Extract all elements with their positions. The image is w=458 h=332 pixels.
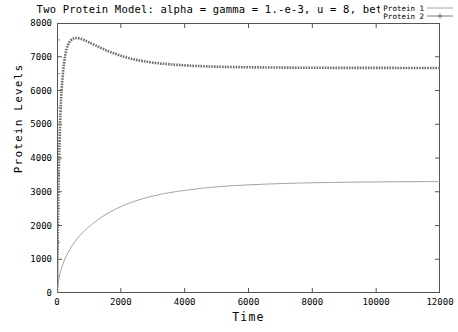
x-tick-label: 4000: [174, 297, 196, 307]
series-lines: [57, 23, 440, 293]
x-tick-label: 10000: [363, 297, 390, 307]
y-tick-label: 0: [4, 288, 52, 298]
legend-plus-marker: [437, 13, 443, 19]
x-tick-label: 2000: [110, 297, 132, 307]
legend-line-sample: [427, 4, 453, 12]
x-axis-tick-labels: 020004000600080001000012000: [57, 297, 440, 311]
y-axis-label: Protein Levels: [12, 49, 25, 189]
series-line: [57, 38, 440, 293]
x-axis-label: Time: [57, 310, 440, 324]
x-tick-label: 0: [54, 297, 59, 307]
y-tick-label: 2000: [4, 221, 52, 231]
y-tick-label: 1000: [4, 254, 52, 264]
x-tick-label: 12000: [426, 297, 453, 307]
legend-line-sample: [427, 12, 453, 20]
plot-area: [57, 23, 440, 293]
legend-item: Protein 2: [383, 12, 453, 20]
y-axis-tick-labels: 010002000300040005000600070008000: [0, 23, 52, 293]
legend-label: Protein 2: [383, 12, 424, 21]
chart-container: Two Protein Model: alpha = gamma = 1.-e-…: [0, 0, 458, 332]
x-tick-label: 6000: [238, 297, 260, 307]
x-tick-label: 8000: [301, 297, 323, 307]
series-line: [57, 182, 440, 293]
chart-legend: Protein 1Protein 2: [380, 3, 455, 21]
y-tick-label: 8000: [4, 18, 52, 28]
